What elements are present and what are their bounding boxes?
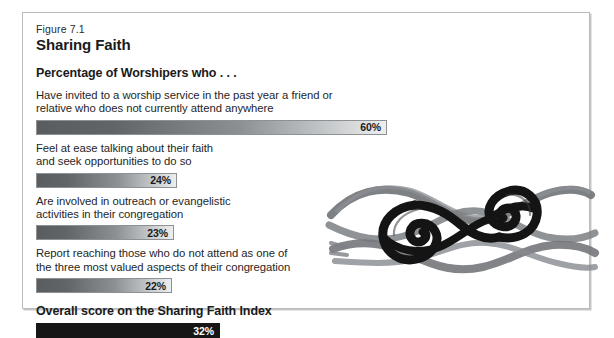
item-label-2-line-2: and seek opportunities to do so [36,155,416,168]
item-label-4-line-1: Report reaching those who do not attend … [36,247,416,260]
figure-frame: Figure 7.1 Sharing Faith Percentage of W… [22,12,590,309]
bar-2: 24% [36,173,177,188]
item-label-2: Feel at ease talking about their faith a… [36,142,416,169]
bar-overall-value: 32% [193,326,214,337]
bar-row-4: 22% [36,278,416,293]
item-label-1: Have invited to a worship service in the… [36,89,416,116]
item-label-1-line-2: relative who does not currently attend a… [36,102,416,115]
item-label-3-line-2: activities in their congregation [36,208,416,221]
bar-overall: 32% [36,323,220,338]
item-label-1-line-1: Have invited to a worship service in the… [36,89,416,102]
section-heading: Percentage of Worshipers who . . . [36,66,416,81]
bar-row-overall: 32% [36,323,416,338]
bar-row-3: 23% [36,225,416,240]
bar-1: 60% [36,120,387,135]
figure-content-column: Figure 7.1 Sharing Faith Percentage of W… [36,23,416,338]
item-label-4-line-2: the three most valued aspects of their c… [36,261,416,274]
bar-4: 22% [36,278,172,293]
bar-3: 23% [36,225,174,240]
bar-4-value: 22% [145,281,166,292]
item-label-2-line-1: Feel at ease talking about their faith [36,142,416,155]
bar-1-value: 60% [360,122,381,133]
bar-2-value: 24% [150,175,171,186]
item-label-3: Are involved in outreach or evangelistic… [36,195,416,222]
bar-3-value: 23% [147,228,168,239]
bar-row-2: 24% [36,173,416,188]
bar-row-1: 60% [36,120,416,135]
item-label-4: Report reaching those who do not attend … [36,247,416,274]
figure-title: Sharing Faith [36,36,416,54]
item-label-3-line-1: Are involved in outreach or evangelistic [36,195,416,208]
figure-number: Figure 7.1 [36,23,416,36]
overall-label: Overall score on the Sharing Faith Index [36,304,416,319]
